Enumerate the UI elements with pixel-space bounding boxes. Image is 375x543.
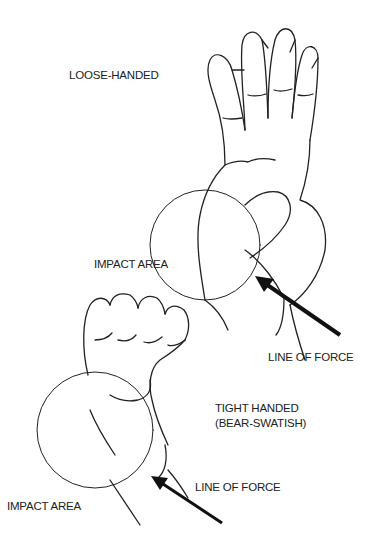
impact-area-circle-bottom	[37, 372, 153, 488]
hand-strike-diagram: LOOSE-HANDED IMPACT AREA LINE OF FORCE T…	[0, 0, 375, 543]
loose-handed-label: LOOSE-HANDED	[69, 68, 159, 82]
impact-area-label-top: IMPACT AREA	[94, 257, 168, 271]
line-of-force-label-top: LINE OF FORCE	[268, 350, 354, 364]
diagram-artwork	[0, 0, 375, 543]
tight-handed-label: TIGHT HANDED	[215, 401, 299, 415]
bear-swatish-label: (BEAR-SWATISH)	[215, 416, 306, 430]
impact-area-circle-top	[150, 190, 260, 300]
line-of-force-arrow-top	[255, 276, 340, 335]
line-of-force-label-bottom: LINE OF FORCE	[195, 480, 281, 494]
impact-area-label-bottom: IMPACT AREA	[7, 499, 81, 513]
